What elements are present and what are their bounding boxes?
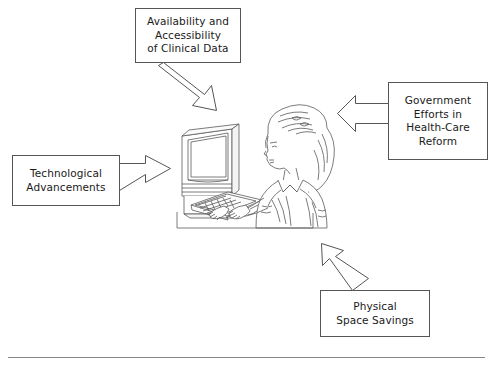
arrow-availability <box>159 63 217 111</box>
box-physical[interactable] <box>321 291 430 337</box>
illustration-woman-at-computer <box>177 105 334 228</box>
arrow-physical <box>322 244 369 291</box>
box-government[interactable] <box>389 83 488 160</box>
box-technological[interactable] <box>13 156 120 206</box>
diagram-canvas: Availability and Accessibility of Clinic… <box>0 0 493 367</box>
diagram-graphics <box>0 0 493 367</box>
arrow-government <box>338 96 389 132</box>
arrow-technological <box>120 156 171 191</box>
box-availability[interactable] <box>136 9 241 63</box>
